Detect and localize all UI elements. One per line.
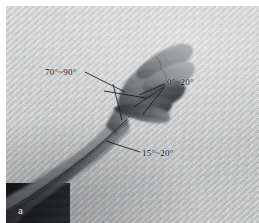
figure-panel: 70°~90° 0°~20° 15°~20° a bbox=[0, 0, 259, 223]
limb-illustration bbox=[6, 6, 259, 223]
annotation-finger-flexion: 0°~20° bbox=[167, 77, 194, 87]
leader-wrist-extension bbox=[85, 72, 125, 92]
annotation-ulnar-deviation: 15°~20° bbox=[142, 148, 173, 158]
photograph-plate: 70°~90° 0°~20° 15°~20° a bbox=[6, 6, 259, 223]
annotation-wrist-extension: 70°~90° bbox=[45, 67, 76, 77]
panel-letter: a bbox=[18, 205, 23, 216]
